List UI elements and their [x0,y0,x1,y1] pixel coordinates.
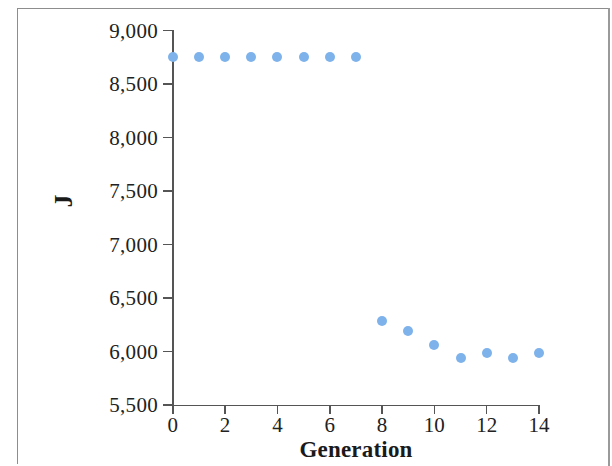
y-axis-tick-label: 9,000 [58,21,158,42]
y-axis-tick [163,190,172,192]
y-axis-title: J [49,181,79,221]
y-axis-tick [163,30,172,32]
data-point [325,52,335,62]
x-axis-tick-label: 12 [467,415,507,436]
y-axis-tick [163,137,172,139]
x-axis-line [172,405,540,407]
data-point [272,52,282,62]
y-axis-line [172,30,174,406]
y-axis-tick [163,404,172,406]
data-point [168,52,178,62]
data-point [456,353,466,363]
y-axis-tick-label: 5,500 [58,395,158,416]
y-axis-tick-label: 6,000 [58,342,158,363]
data-point [403,326,413,336]
data-point [194,52,204,62]
chart-page: 5,5006,0006,5007,0007,5008,0008,5009,000… [0,0,612,466]
x-axis-tick-label: 2 [205,415,245,436]
y-axis-tick [163,244,172,246]
y-axis-tick-label: 6,500 [58,288,158,309]
data-point [246,52,256,62]
data-point [482,348,492,358]
y-axis-tick-label: 8,500 [58,74,158,95]
x-axis-tick-label: 4 [257,415,297,436]
data-point [351,52,361,62]
y-axis-tick-label: 8,000 [58,128,158,149]
data-point [299,52,309,62]
x-axis-tick-label: 10 [414,415,454,436]
x-axis-tick-label: 14 [519,415,559,436]
x-axis-tick-label: 8 [362,415,402,436]
data-point [377,316,387,326]
x-axis-tick-label: 0 [153,415,193,436]
data-point [534,348,544,358]
data-point [508,353,518,363]
data-point [429,340,439,350]
x-axis-tick-label: 6 [310,415,350,436]
y-axis-tick [163,83,172,85]
y-axis-tick [163,351,172,353]
x-axis-title: Generation [172,437,540,463]
y-axis-tick-label: 7,000 [58,235,158,256]
y-axis-tick [163,297,172,299]
scatter-plot: 5,5006,0006,5007,0007,5008,0008,5009,000… [0,0,612,466]
data-point [220,52,230,62]
